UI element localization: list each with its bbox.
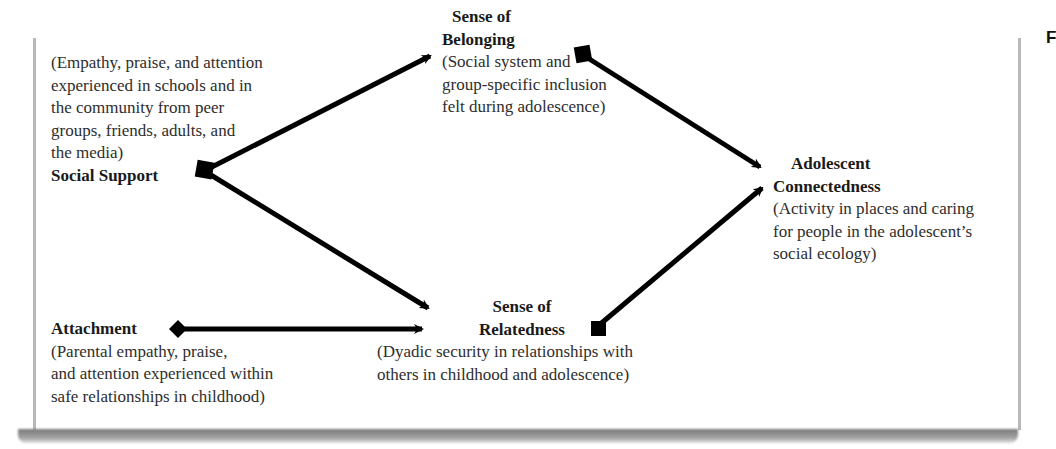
attachment-desc: (Parental empathy, praise, and attention… (51, 341, 273, 409)
arrow-belonging-to-connectedness (583, 55, 760, 167)
node-attachment: Attachment (Parental empathy, praise, an… (51, 318, 273, 408)
belonging-desc: (Social system and group-specific inclus… (442, 51, 607, 119)
attachment-title: Attachment (51, 318, 273, 341)
social-support-desc: (Empathy, praise, and attention experien… (51, 52, 263, 165)
connectedness-title: Adolescent Connectedness (773, 153, 974, 198)
belonging-title: Sense of Belonging (442, 6, 607, 51)
relatedness-title: Sense of Relatedness (377, 296, 667, 341)
node-social-support: (Empathy, praise, and attention experien… (51, 52, 263, 187)
node-sense-of-belonging: Sense of Belonging (Social system and gr… (442, 6, 607, 119)
node-sense-of-relatedness: Sense of Relatedness (Dyadic security in… (377, 296, 667, 386)
social-support-title: Social Support (51, 165, 263, 188)
connectedness-desc: (Activity in places and caring for peopl… (773, 198, 974, 266)
arrow-support-to-relatedness (206, 172, 428, 308)
relatedness-desc: (Dyadic security in relationships with o… (377, 341, 667, 386)
node-adolescent-connectedness: Adolescent Connectedness (Activity in pl… (773, 153, 974, 266)
